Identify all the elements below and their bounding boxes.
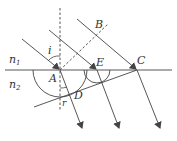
angle-r-arc xyxy=(60,87,67,88)
label-A: A xyxy=(48,72,57,85)
label-n1: n1 xyxy=(9,53,21,67)
refraction-diagram: i B E C A D r n1 n2 xyxy=(0,0,177,141)
label-E: E xyxy=(95,56,104,69)
label-B: B xyxy=(94,18,103,31)
refracted-ray-2 xyxy=(97,70,119,128)
incident-ray-2 xyxy=(49,30,96,69)
label-r: r xyxy=(62,98,67,108)
label-C: C xyxy=(137,54,146,67)
label-n2: n2 xyxy=(9,78,21,92)
incident-ray-3 xyxy=(77,19,136,69)
incident-ray-1 xyxy=(22,39,59,69)
refracted-ray-3 xyxy=(137,70,160,128)
label-D: D xyxy=(73,89,83,102)
label-i: i xyxy=(48,44,52,57)
